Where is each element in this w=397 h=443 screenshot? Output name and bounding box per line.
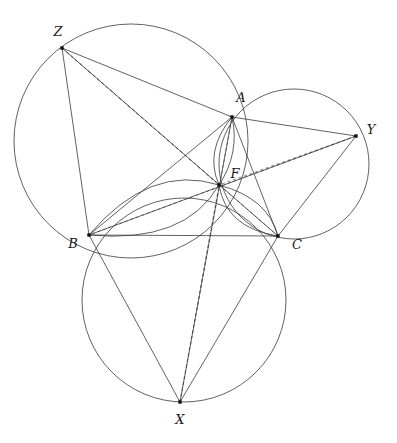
segment-cy: [278, 136, 356, 236]
arc-bf-upper: [89, 180, 219, 235]
vertex-dot-b: [87, 233, 90, 236]
figure-canvas: A B C X Y Z F: [0, 0, 397, 443]
vertex-dot-f: [217, 183, 220, 186]
vertex-dot-x: [178, 400, 181, 403]
cevian-cz: [62, 48, 278, 236]
point-label-c: C: [292, 237, 302, 252]
inner-arcs-group: [89, 117, 278, 236]
solid-segments-group: [62, 48, 356, 402]
vertex-dot-a: [230, 115, 233, 118]
segment-ab: [89, 117, 232, 235]
segment-bx: [89, 235, 180, 402]
vertex-dot-y: [354, 134, 357, 137]
segment-ay: [232, 117, 356, 136]
segment-za: [62, 48, 232, 117]
circumcircles-group: [14, 24, 369, 402]
vertex-dots-group: [60, 46, 357, 403]
geometry-figure: A B C X Y Z F: [0, 0, 397, 443]
segment-zb: [62, 48, 89, 235]
vertex-dot-z: [60, 46, 63, 49]
point-label-x: X: [174, 412, 185, 427]
point-label-f: F: [229, 166, 240, 181]
point-label-b: B: [67, 236, 78, 251]
cevian-ax: [180, 117, 232, 402]
point-label-y: Y: [367, 122, 377, 137]
vertex-dot-c: [276, 234, 279, 237]
arc-af-left: [214, 117, 232, 185]
point-label-z: Z: [52, 24, 63, 39]
dashed-segments-group: [62, 48, 356, 402]
circumcircle-acy: [219, 89, 369, 239]
cevian-by: [89, 136, 356, 235]
point-label-a: A: [235, 90, 245, 105]
